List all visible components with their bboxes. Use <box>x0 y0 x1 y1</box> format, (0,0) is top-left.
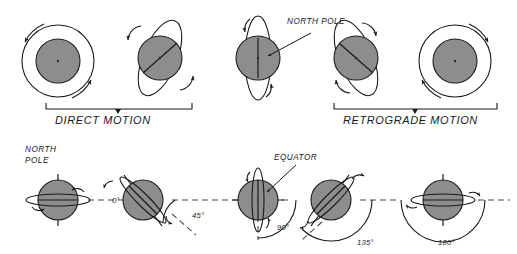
spin-direction-arrow-back <box>300 221 308 228</box>
spin-direction-arrow-back <box>406 205 417 208</box>
tilt-angle-label-180: 180° <box>438 238 455 247</box>
tilt-angle-label-135: 135° <box>357 238 374 247</box>
pole-center-dot <box>355 57 357 59</box>
panel-retrograde-pole-view <box>419 24 491 98</box>
panel-tilt-45: 45° <box>104 173 218 235</box>
tilt-angle-label-45: 45° <box>192 211 204 220</box>
rotation-arrow-cw-bottom <box>422 80 441 98</box>
rotation-arrow-cw-top <box>469 24 488 42</box>
panel-direct-pole-view <box>22 24 94 98</box>
retrograde-motion-caption: RETROGRADE MOTION <box>343 114 478 126</box>
pole-center-dot <box>257 57 259 59</box>
rotation-arrow-ccw-top <box>25 24 44 42</box>
rotation-arrow-bottom <box>336 80 350 93</box>
north-pole-label-line1: NORTH <box>25 145 56 154</box>
pole-center-dot <box>159 57 161 59</box>
panel-tilt-180: 180° <box>401 174 510 247</box>
direct-motion-bracket <box>46 103 192 109</box>
panel-direct-edge-view: NORTH POLE <box>236 16 345 100</box>
panel-retrograde-tilted-view <box>325 15 386 102</box>
spin-direction-arrow-back <box>166 216 172 224</box>
rotation-arrow-bottom <box>180 76 193 90</box>
tilt-angle-label-0: 0° <box>112 196 120 205</box>
direct-motion-caption: DIRECT MOTION <box>55 114 151 126</box>
retrograde-motion-bracket <box>334 103 497 109</box>
diagram-canvas: NORTH POLE DIRECT MOTION <box>0 0 517 254</box>
spin-direction-arrow <box>469 192 480 196</box>
rotation-arrow-ccw-bottom <box>72 80 91 98</box>
direct-motion-bracket-group: DIRECT MOTION <box>46 103 192 126</box>
rotation-arrow-top <box>362 23 376 36</box>
equator-leader-line <box>267 165 296 192</box>
panel-direct-tilted-view <box>128 15 193 102</box>
retrograde-motion-bracket-group: RETROGRADE MOTION <box>334 103 497 126</box>
spin-direction-arrow-back <box>266 218 269 228</box>
tilt-angle-label-90: 90° <box>277 223 289 232</box>
north-pole-label-line2: POLE <box>25 156 49 165</box>
panel-tilt-0: NORTH POLE 0° <box>25 145 132 226</box>
equator-label: EQUATOR <box>274 153 317 162</box>
planetary-rotation-diagram: NORTH POLE DIRECT MOTION <box>0 0 517 254</box>
spin-direction-arrow <box>247 172 250 182</box>
pole-center-dot <box>454 60 456 62</box>
panel-tilt-135: 135° <box>300 173 400 247</box>
rotation-arrow-top <box>128 26 141 40</box>
pole-center-dot <box>57 60 59 62</box>
spin-direction-arrow <box>104 181 113 188</box>
